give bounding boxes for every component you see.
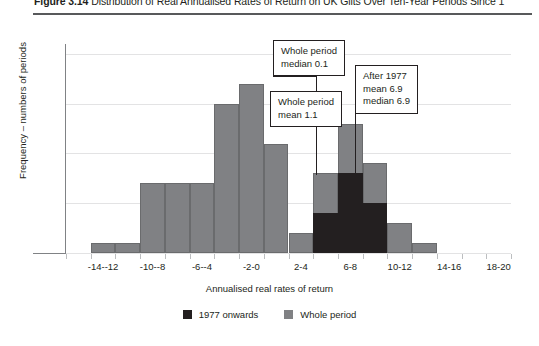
x-axis-tick-label: 18-20 xyxy=(469,261,529,272)
annotation-line: Whole period xyxy=(278,96,334,109)
gridline xyxy=(66,203,511,204)
bar-1977-onwards xyxy=(313,213,338,253)
annotation-leader-line xyxy=(316,127,317,175)
x-axis-tick xyxy=(363,254,364,259)
legend-item: Whole period xyxy=(284,309,356,320)
legend-item: 1977 onwards xyxy=(183,309,259,320)
x-axis-tick xyxy=(239,254,240,259)
x-axis-tick xyxy=(190,254,191,259)
figure-caption-text: Distribution of Real Annualised Rates of… xyxy=(91,0,504,7)
x-axis-tick xyxy=(91,254,92,259)
annotation-line: mean 6.9 xyxy=(363,83,410,96)
bar-whole-period xyxy=(214,104,239,253)
annotation-line: median 6.9 xyxy=(363,95,410,108)
x-axis-tick xyxy=(66,254,67,259)
bar-whole-period xyxy=(412,243,437,253)
figure-number: Figure 3.14 xyxy=(34,0,88,7)
bar-whole-period xyxy=(289,233,314,253)
x-axis-tick xyxy=(115,254,116,259)
x-axis-tick xyxy=(486,254,487,259)
x-axis-title: Annualised real rates of return xyxy=(0,283,539,294)
bar-whole-period xyxy=(264,144,289,253)
annotation-line: median 0.1 xyxy=(281,58,337,71)
figure-caption: Figure 3.14 Distribution of Real Annuali… xyxy=(34,0,539,9)
x-axis-tick xyxy=(313,254,314,259)
annotation-whole-period-median: Whole period median 0.1 xyxy=(273,40,345,76)
bar-whole-period xyxy=(190,183,215,253)
x-axis-tick xyxy=(165,254,166,259)
bar-whole-period xyxy=(91,243,116,253)
bar-whole-period xyxy=(387,223,412,253)
x-axis-tick xyxy=(387,254,388,259)
bar-whole-period xyxy=(239,84,264,253)
bar-1977-onwards xyxy=(363,203,388,253)
annotation-after-1977: After 1977 mean 6.9 median 6.9 xyxy=(355,65,418,114)
annotation-line: Whole period xyxy=(281,45,337,58)
annotation-whole-period-mean: Whole period mean 1.1 xyxy=(270,91,342,127)
square-swatch-dark-icon xyxy=(183,310,192,319)
annotation-line: After 1977 xyxy=(363,70,410,83)
x-axis-tick xyxy=(437,254,438,259)
square-swatch-grey-icon xyxy=(284,310,293,319)
x-axis-tick xyxy=(214,254,215,259)
bar-whole-period xyxy=(140,183,165,253)
bar-whole-period xyxy=(165,183,190,253)
x-axis-tick xyxy=(412,254,413,259)
bar-1977-onwards xyxy=(338,173,363,253)
x-axis-tick xyxy=(338,254,339,259)
x-axis-tick xyxy=(511,254,512,259)
legend-label: Whole period xyxy=(300,309,356,320)
annotation-leader-line xyxy=(355,114,356,176)
caption-divider xyxy=(33,13,532,15)
annotation-line: mean 1.1 xyxy=(278,109,334,122)
gridline xyxy=(66,153,511,154)
bar-whole-period xyxy=(115,243,140,253)
chart-legend: 1977 onwards Whole period xyxy=(0,309,539,320)
x-axis-tick xyxy=(140,254,141,259)
x-axis-tick xyxy=(264,254,265,259)
annotation-leader-line xyxy=(273,76,317,77)
legend-label: 1977 onwards xyxy=(199,309,259,320)
x-axis-tick xyxy=(289,254,290,259)
y-axis-title: Frequency – numbers of periods xyxy=(17,21,28,201)
x-axis-tick xyxy=(462,254,463,259)
